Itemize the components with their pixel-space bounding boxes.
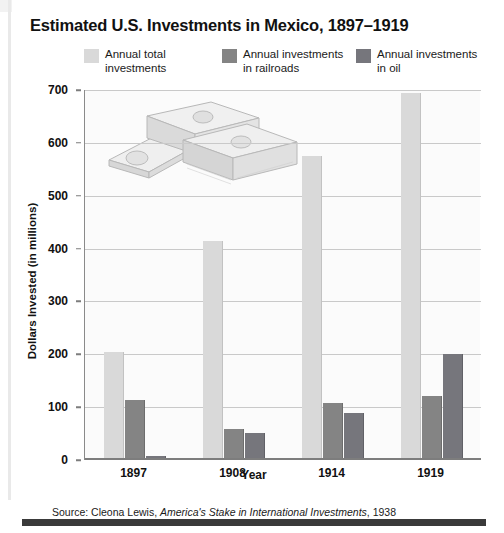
- y-tick-label: 600: [48, 136, 68, 150]
- legend-item-annual-investments-oil: Annual investments in oil: [356, 48, 477, 75]
- y-tick-mark: [76, 142, 81, 144]
- y-tick-mark: [76, 459, 81, 461]
- x-axis-line: [85, 458, 481, 460]
- bar-group-1897: [104, 90, 165, 458]
- source-title: America's Stake in International Investm…: [160, 506, 367, 518]
- source-suffix: , 1938: [367, 506, 396, 518]
- bar-1908-series-2: [224, 429, 244, 458]
- y-tick-label: 100: [48, 400, 68, 414]
- y-tick-mark: [76, 406, 81, 408]
- y-tick-label: 700: [48, 83, 68, 97]
- y-tick-label: 200: [48, 347, 68, 361]
- legend-item-annual-investments-railroads: Annual investments in railroads: [222, 48, 343, 75]
- y-tick-mark: [76, 248, 81, 250]
- source-prefix: Source: Cleona Lewis,: [52, 506, 160, 518]
- bar-1897-series-1: [104, 352, 124, 458]
- legend-label: Annual investments in oil: [377, 48, 477, 75]
- chart-figure: Estimated U.S. Investments in Mexico, 18…: [22, 6, 486, 498]
- bottom-rule: [22, 519, 486, 526]
- left-vertical-rule: [8, 0, 11, 500]
- bar-1914-series-1: [302, 156, 322, 458]
- bar-1908-series-3: [245, 433, 265, 458]
- bar-1914-series-3: [344, 413, 364, 458]
- legend-label: Annual investments in railroads: [243, 48, 343, 75]
- bar-group-1914: [302, 90, 363, 458]
- y-tick-mark: [76, 89, 81, 91]
- y-tick-mark: [76, 354, 81, 356]
- legend-swatch-icon: [222, 49, 237, 63]
- x-axis-label: Year: [22, 468, 486, 482]
- chart-legend: Annual total investmentsAnnual investmen…: [84, 48, 484, 82]
- plot-area: [84, 90, 480, 460]
- y-axis-ticks: 7006005004003002001000: [22, 90, 76, 460]
- bar-1919-series-3: [443, 354, 463, 458]
- bar-1914-series-2: [323, 403, 343, 459]
- y-tick-label: 0: [61, 453, 68, 467]
- bar-1919-series-2: [422, 396, 442, 458]
- bar-1908-series-1: [203, 241, 223, 458]
- y-tick-label: 500: [48, 189, 68, 203]
- plot-wrapper: Dollars Invested (in millions) 700600500…: [84, 90, 480, 460]
- source-note: Source: Cleona Lewis, America's Stake in…: [52, 506, 396, 518]
- y-tick-mark: [76, 301, 81, 303]
- bar-group-1908: [203, 90, 264, 458]
- y-tick-label: 300: [48, 294, 68, 308]
- y-tick-label: 400: [48, 242, 68, 256]
- bar-1897-series-2: [125, 400, 145, 458]
- legend-item-annual-total-investments: Annual total investments: [84, 48, 166, 75]
- legend-label: Annual total investments: [105, 48, 166, 75]
- bar-group-1919: [401, 90, 462, 458]
- y-tick-mark: [76, 195, 81, 197]
- legend-swatch-icon: [356, 49, 371, 63]
- legend-swatch-icon: [84, 49, 99, 63]
- bar-1919-series-1: [401, 93, 421, 458]
- figure-page: Estimated U.S. Investments in Mexico, 18…: [0, 0, 504, 533]
- chart-title: Estimated U.S. Investments in Mexico, 18…: [30, 16, 409, 35]
